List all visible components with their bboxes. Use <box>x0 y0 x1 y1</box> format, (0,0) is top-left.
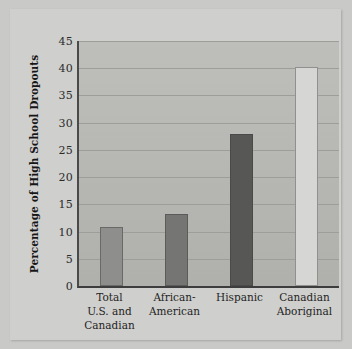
plot-area <box>77 41 339 288</box>
bar <box>100 227 123 286</box>
chart-panel: Percentage of High School Dropouts 05101… <box>10 9 341 340</box>
gridline <box>79 41 339 42</box>
y-axis-label: Percentage of High School Dropouts <box>28 54 40 273</box>
y-axis-ticks: 051015202530354045 <box>48 41 73 286</box>
y-axis-tick-label: 20 <box>51 171 73 184</box>
x-axis-tick-label-line: Aboriginal <box>266 304 344 318</box>
bar <box>230 134 253 286</box>
x-axis-labels: TotalU.S. andCanadianAfrican-AmericanHis… <box>77 290 339 348</box>
x-axis-tick-label-line: Canadian <box>266 290 344 304</box>
y-axis-tick-label: 10 <box>51 225 73 238</box>
y-axis-label-container: Percentage of High School Dropouts <box>24 41 44 286</box>
y-axis-tick-label: 25 <box>51 143 73 156</box>
y-axis-tick-label: 40 <box>51 62 73 75</box>
y-axis-tick-label: 45 <box>51 35 73 48</box>
bar <box>165 214 188 286</box>
x-axis-tick-label-line: American <box>136 304 214 318</box>
bar <box>295 67 318 286</box>
y-axis-tick-label: 30 <box>51 116 73 129</box>
figure: Percentage of High School Dropouts 05101… <box>0 0 352 349</box>
x-axis-tick-label-line: Canadian <box>71 318 149 332</box>
x-axis-tick-label: CanadianAboriginal <box>266 290 344 318</box>
y-axis-tick-label: 5 <box>51 252 73 265</box>
y-axis-tick-label: 35 <box>51 89 73 102</box>
y-axis-tick-label: 15 <box>51 198 73 211</box>
